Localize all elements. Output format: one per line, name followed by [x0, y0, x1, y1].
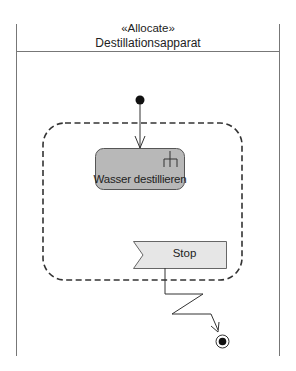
action-label: Wasser destillieren	[92, 173, 188, 185]
partition-stereotype: «Allocate»	[16, 22, 280, 34]
accept-event-label: Stop	[143, 247, 226, 259]
partition-name: Destillationsapparat	[16, 36, 280, 50]
activity-diagram	[0, 0, 296, 371]
initial-node[interactable]	[136, 96, 145, 105]
activity-final-dot-icon	[219, 338, 227, 346]
interrupting-edge	[165, 268, 218, 330]
